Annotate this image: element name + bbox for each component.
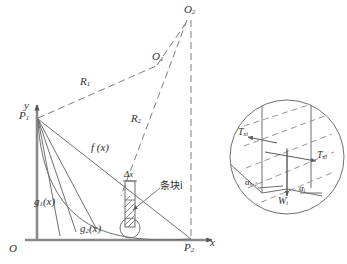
point-O2-label: O2 [184, 4, 195, 16]
function-f-line [38, 119, 191, 239]
origin-label: O [9, 243, 17, 254]
slice-annotation-leader [133, 188, 160, 210]
radius-R1-line [38, 66, 156, 118]
radius-R2-label: R2 [131, 113, 141, 125]
angle-right-label: αi [299, 184, 305, 194]
inset-force-vectors [248, 137, 316, 196]
function-g2-label: g2(x) [80, 223, 101, 235]
detail-callout-circle [120, 218, 140, 238]
inset-base-lines [229, 163, 322, 196]
weight-label: Wi [278, 196, 288, 206]
radius-lines-group [38, 20, 191, 239]
function-f-label: f (x) [91, 142, 109, 153]
diagram-vector-layer [0, 0, 347, 264]
thrust-right-vector [265, 152, 316, 161]
point-P2-label: P2 [184, 242, 194, 254]
point-O1-label: O1 [152, 51, 163, 63]
figure-canvas: y x O P1 P2 O1 O2 R1 R2 f (x) g1(x) g2(x… [0, 0, 347, 264]
radius-R1-label: R1 [80, 76, 90, 88]
axis-group [25, 105, 212, 240]
inner-chord-b [38, 119, 76, 232]
slice-annotation-label: 条块i [160, 181, 183, 191]
angle-left-label: αn-1 [245, 178, 257, 188]
thrust-left-label: Txi [238, 127, 248, 137]
delta-x-label: Δx [124, 170, 133, 179]
x-axis-label: x [210, 237, 215, 248]
inner-chord-c [38, 119, 60, 236]
slice-bar-hatch [125, 196, 135, 227]
inner-chord-a [38, 119, 96, 228]
thrust-right-label: Txi [317, 150, 327, 160]
inset-base-mid [262, 189, 287, 193]
function-g1-label: g1(x) [34, 196, 55, 208]
point-P1-label: P1 [19, 110, 29, 122]
